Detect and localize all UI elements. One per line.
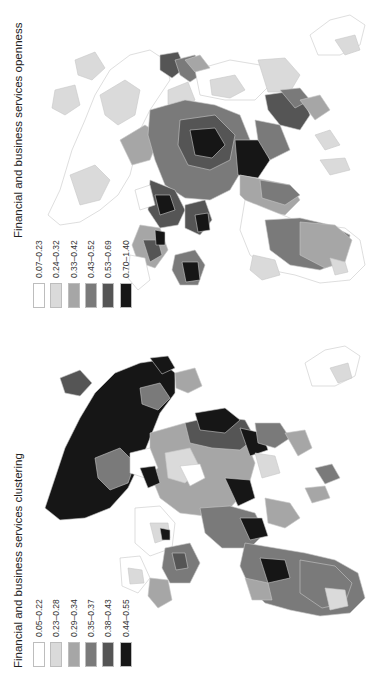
legend-swatch-openness-3 [68, 283, 80, 308]
legend-label-openness-4: 0.43–0.52 [86, 240, 96, 278]
legend-label-openness-5: 0.53–0.69 [103, 240, 113, 278]
legend-swatch-openness-5 [102, 283, 114, 308]
legend-swatch-clustering-4 [85, 642, 97, 667]
legend-label-openness-6: 0.70–1.40 [121, 240, 131, 278]
openness-legend-title: Financial and business services openness [12, 23, 24, 238]
clustering-map-panel: Financial and business services clusteri… [0, 338, 388, 676]
clustering-legend-title: Financial and business services clusteri… [12, 453, 24, 668]
legend-label-clustering-5: 0.38–0.43 [103, 599, 113, 637]
legend-swatch-openness-1 [33, 283, 45, 308]
legend-label-clustering-6: 0.44–0.55 [121, 599, 131, 637]
legend-swatch-clustering-1 [33, 642, 45, 667]
legend-label-clustering-4: 0.35–0.37 [86, 599, 96, 637]
legend-label-clustering-1: 0.05–0.22 [34, 599, 44, 637]
legend-label-clustering-3: 0.29–0.34 [69, 599, 79, 637]
legend-label-openness-2: 0.24–0.32 [51, 240, 61, 278]
legend-swatch-openness-6 [120, 283, 132, 308]
openness-map-panel: Financial and business services openness… [0, 0, 388, 338]
legend-swatch-clustering-6 [120, 642, 132, 667]
legend-label-openness-1: 0.07–0.23 [34, 240, 44, 278]
legend-swatch-clustering-2 [50, 642, 62, 667]
legend-swatch-clustering-5 [102, 642, 114, 667]
legend-label-clustering-2: 0.23–0.28 [51, 599, 61, 637]
legend-swatch-clustering-3 [68, 642, 80, 667]
legend-label-openness-3: 0.33–0.42 [69, 240, 79, 278]
legend-swatch-openness-2 [50, 283, 62, 308]
legend-swatch-openness-4 [85, 283, 97, 308]
